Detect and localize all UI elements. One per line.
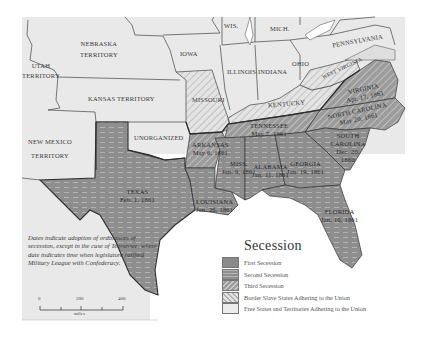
swatch-hatch-light-icon	[222, 292, 239, 303]
label-tennessee: TENNESSEEMay 7, 1861	[250, 122, 288, 138]
label-nebraska: NEBRASKATERRITORY	[80, 40, 118, 59]
label-missouri: MISSOURI	[192, 96, 225, 104]
scale-tick-0: 0	[38, 296, 41, 301]
label-illinois: ILLINOIS	[227, 68, 256, 76]
legend-item-first-secession: First Secession	[222, 257, 422, 269]
legend: Secession First Secession Second Secessi…	[222, 238, 422, 315]
scale-bar: 0 200 400 miles	[38, 296, 128, 320]
label-michigan: MICH.	[270, 25, 290, 33]
label-texas: TEXASFeb. 1, 1861	[120, 188, 155, 204]
legend-item-free-states: Free States and Territories Adhering to …	[222, 303, 422, 315]
legend-item-third-secession: Third Secession	[222, 280, 422, 292]
swatch-light-icon	[222, 303, 239, 314]
label-georgia: GEORGIAJan. 19, 1861	[287, 160, 324, 176]
label-florida: FLORIDAJan. 10, 1861	[321, 208, 358, 224]
swatch-hatch-dark-icon	[222, 280, 239, 291]
label-iowa: IOWA	[180, 50, 198, 58]
label-south-carolina: SOUTH CAROLINADec. 20, 1860	[330, 132, 366, 164]
label-alabama: ALABAMAJan. 11, 1861	[252, 163, 289, 179]
label-unorganized: UNORGANIZED	[134, 134, 184, 142]
scale-unit: miles	[74, 311, 85, 316]
swatch-solid-icon	[222, 257, 239, 268]
legend-item-border-states: Border Slave States Adhering to the Unio…	[222, 292, 422, 304]
map-note: Dates indicate adoption of ordinances of…	[28, 234, 158, 267]
label-ohio: OHIO	[292, 60, 309, 68]
scale-tick-400: 400	[118, 296, 126, 301]
label-utah: UTAHTERRITORY	[22, 62, 60, 80]
label-wisconsin: WIS.	[224, 22, 238, 30]
label-new-mexico: NEW MEXICOTERRITORY	[28, 138, 72, 160]
legend-item-second-secession: Second Secession	[222, 269, 422, 281]
label-mississippi: MISS.Jan. 9, 1861	[222, 160, 256, 176]
legend-title: Secession	[244, 238, 422, 254]
label-louisiana: LOUISIANAJan. 26, 1861	[196, 198, 233, 214]
label-arkansas: ARKANSASMay 6, 1861	[192, 141, 229, 157]
swatch-dashed-icon	[222, 269, 239, 280]
scale-tick-200: 200	[76, 296, 84, 301]
label-indiana: INDIANA	[258, 68, 287, 76]
label-kansas: KANSAS TERRITORY	[88, 95, 155, 103]
